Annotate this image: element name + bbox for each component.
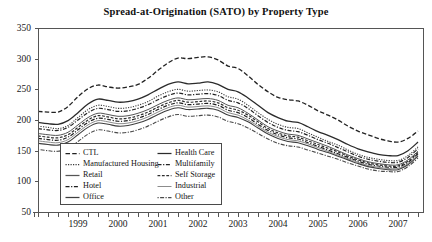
legend-column-left: CTLManufactured HousingRetailHotelOffice [65,147,157,202]
legend-item[interactable]: Hotel [65,180,157,191]
chart-figure: Spread-at-Origination (SATO) by Property… [0,0,432,242]
legend-line-swatch [157,148,172,158]
legend-item[interactable]: Other [157,191,217,202]
legend-item[interactable]: Industrial [157,180,217,191]
legend-item[interactable]: Office [65,191,157,202]
legend-line-swatch [65,148,80,158]
legend-item-label: Retail [83,169,103,180]
legend-item[interactable]: Retail [65,169,157,180]
legend-item-label: CTL [83,147,98,158]
legend-item-label: Health Care [175,147,214,158]
legend-line-swatch [65,159,80,169]
legend-item-label: Self Storage [175,169,215,180]
legend-item-label: Other [175,191,194,202]
legend-line-swatch [65,170,80,180]
legend-line-swatch [157,181,172,191]
legend-item[interactable]: Multifamily [157,158,217,169]
legend-line-swatch [65,181,80,191]
legend-line-swatch [65,192,80,202]
legend-item[interactable]: Health Care [157,147,217,158]
legend-column-right: Health CareMultifamilySelf StorageIndust… [157,147,217,202]
legend-item-label: Multifamily [175,158,215,169]
legend-line-swatch [157,192,172,202]
legend-item[interactable]: CTL [65,147,157,158]
legend-item-label: Hotel [83,180,101,191]
legend-item[interactable]: Self Storage [157,169,217,180]
legend-item[interactable]: Manufactured Housing [65,158,157,169]
legend-item-label: Industrial [175,180,206,191]
legend-item-label: Manufactured Housing [83,158,159,169]
chart-legend: CTLManufactured HousingRetailHotelOffice… [60,143,222,205]
legend-item-label: Office [83,191,104,202]
axes [0,0,432,242]
legend-line-swatch [157,159,172,169]
legend-line-swatch [157,170,172,180]
